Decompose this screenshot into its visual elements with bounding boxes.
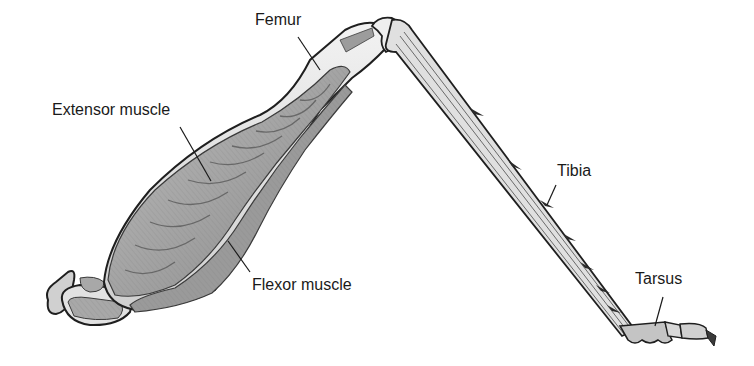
leg-diagram [0,0,754,366]
tarsus-segment [620,322,716,346]
label-flexor-muscle: Flexor muscle [252,277,352,293]
label-femur: Femur [255,12,301,28]
label-tarsus: Tarsus [635,271,682,287]
label-extensor-muscle: Extensor muscle [52,102,170,118]
label-tibia: Tibia [557,163,591,179]
tibia-segment [386,20,635,336]
femur-segment [104,18,400,312]
